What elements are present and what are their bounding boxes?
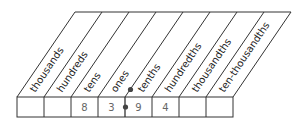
header-tenths: tenths (136, 62, 163, 95)
header-tens: tens (82, 70, 103, 94)
header-ten-thousandths: ten-thousandths (217, 20, 272, 94)
cell-tens: 8 (81, 102, 87, 113)
place-value-chart: thousands hundreds tens ones tenths hund… (0, 0, 307, 123)
decimal-point-dot (123, 104, 128, 109)
cell-hundredths: 4 (162, 102, 168, 113)
cell-ones: 3 (108, 102, 114, 113)
decimal-point-dot-header (128, 87, 133, 92)
header-ones: ones (109, 68, 131, 94)
cell-tenths: 9 (135, 102, 141, 113)
